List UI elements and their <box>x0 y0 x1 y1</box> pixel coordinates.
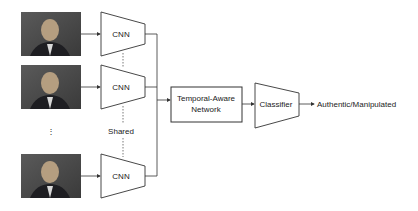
cnn-block-2: CNN <box>101 65 145 109</box>
ellipsis: ⋮ <box>47 127 55 136</box>
pipeline-diagram: ⋮ CNN CNN CNN Shared Temporal-Aware Netw… <box>0 0 418 211</box>
temporal-aware-network-block: Temporal-Aware Network <box>171 87 242 122</box>
svg-text:Classifier: Classifier <box>260 100 293 109</box>
cnn-output-bus <box>145 34 170 176</box>
output-label: Authentic/Manipulated <box>317 100 396 109</box>
svg-text:CNN: CNN <box>112 172 130 181</box>
shared-label: Shared <box>108 127 134 136</box>
video-frame-2 <box>21 65 81 109</box>
video-frame-1 <box>21 12 81 56</box>
svg-text:CNN: CNN <box>112 30 130 39</box>
svg-text:CNN: CNN <box>112 83 130 92</box>
svg-text:Network: Network <box>191 105 221 114</box>
svg-text:Temporal-Aware: Temporal-Aware <box>177 94 236 103</box>
cnn-block-n: CNN <box>101 154 145 198</box>
cnn-block-1: CNN <box>101 12 145 56</box>
video-frame-n <box>21 154 81 198</box>
classifier-block: Classifier <box>255 83 299 128</box>
